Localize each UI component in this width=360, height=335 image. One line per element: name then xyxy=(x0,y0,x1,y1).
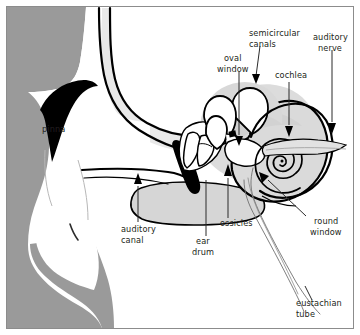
label-auditory-canal-line1: auditory xyxy=(121,224,156,234)
label-auditory-canal-line2: canal xyxy=(121,235,144,245)
label-auditory-nerve-line1: auditory xyxy=(313,32,348,42)
label-ear-drum-line2: drum xyxy=(192,247,214,257)
label-semicircular-canals-line1: semicircular xyxy=(249,28,301,38)
label-semicircular-canals-line2: canals xyxy=(249,39,276,49)
label-oval-window-line1: oval xyxy=(224,53,242,63)
label-oval-window-line2: window xyxy=(217,64,249,74)
figure-container: pinna auditory canal ear drum ossicles o… xyxy=(0,0,360,335)
cochlea-apex-dot xyxy=(281,160,284,163)
label-ossicles: ossicles xyxy=(220,218,253,228)
label-round-window-line2: window xyxy=(310,227,342,237)
label-auditory-nerve-line2: nerve xyxy=(318,43,342,53)
label-ear-drum-line1: ear xyxy=(196,236,210,246)
label-round-window-line1: round xyxy=(314,216,338,226)
label-cochlea: cochlea xyxy=(275,70,307,80)
ear-anatomy-diagram: pinna auditory canal ear drum ossicles o… xyxy=(0,0,360,335)
label-eustachian-tube-line1: eustachian xyxy=(296,298,342,308)
label-eustachian-tube-line2: tube xyxy=(296,309,315,319)
label-pinna: pinna xyxy=(42,124,65,134)
